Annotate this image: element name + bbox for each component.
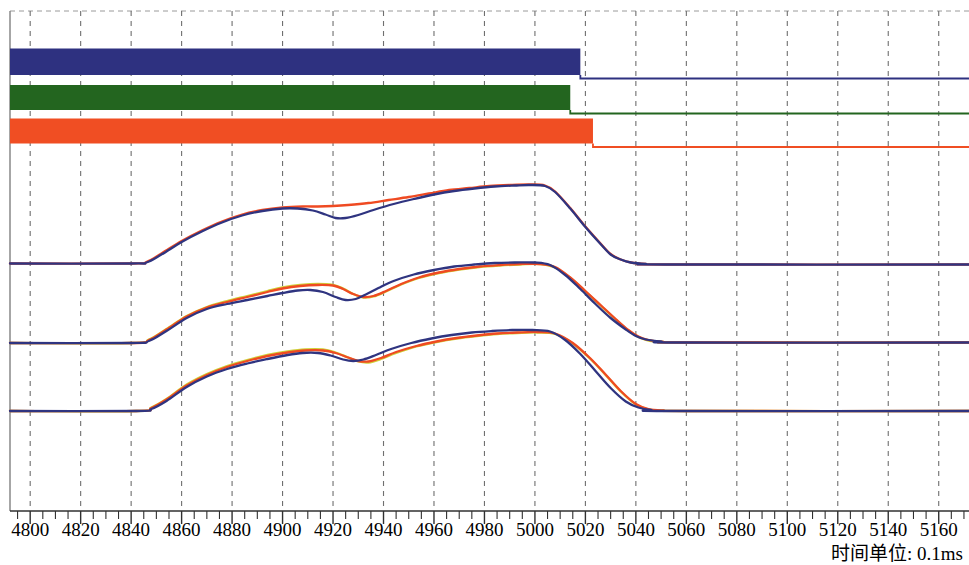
x-tick-label: 5040 bbox=[617, 519, 655, 541]
x-axis-unit-label: 时间单位: 0.1ms bbox=[831, 543, 963, 564]
x-tick-label: 5100 bbox=[768, 519, 806, 541]
x-tick-label: 4800 bbox=[11, 519, 49, 541]
bar-green-high bbox=[10, 85, 570, 110]
plot-area bbox=[0, 0, 969, 565]
x-tick-label: 4980 bbox=[466, 519, 504, 541]
x-tick-label: 4900 bbox=[264, 519, 302, 541]
bar-orange-high bbox=[10, 119, 593, 144]
oscilloscope-waveform-chart: 4800482048404860488049004920494049604980… bbox=[0, 0, 969, 565]
x-tick-label: 4940 bbox=[365, 519, 403, 541]
x-tick-label: 4960 bbox=[415, 519, 453, 541]
x-tick-label: 5120 bbox=[819, 519, 857, 541]
x-tick-label: 5160 bbox=[920, 519, 958, 541]
x-tick-label: 4840 bbox=[112, 519, 150, 541]
x-tick-label: 4860 bbox=[163, 519, 201, 541]
x-tick-label: 5000 bbox=[516, 519, 554, 541]
x-tick-label: 5020 bbox=[566, 519, 604, 541]
x-tick-label: 5060 bbox=[667, 519, 705, 541]
x-tick-label: 4920 bbox=[314, 519, 352, 541]
x-tick-label: 5140 bbox=[869, 519, 907, 541]
x-tick-label: 4880 bbox=[213, 519, 251, 541]
x-tick-label: 5080 bbox=[718, 519, 756, 541]
bar-navy-high bbox=[10, 49, 580, 76]
x-tick-label: 4820 bbox=[62, 519, 100, 541]
